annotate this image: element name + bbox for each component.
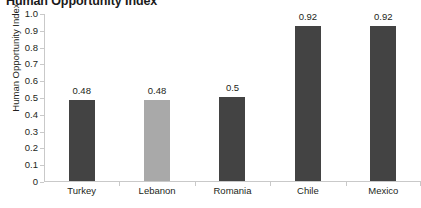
bar-value-label: 0.5 <box>226 83 239 93</box>
page-title: Human Opportunity Index <box>6 0 157 8</box>
y-axis-title: Human Opportunity Index <box>10 0 21 117</box>
y-axis-tick-label: 0.6 <box>25 76 38 86</box>
y-axis-tick-label: 0.3 <box>25 127 38 137</box>
x-axis-category-label: Mexico <box>368 186 398 196</box>
bar-value-label: 0.92 <box>374 12 393 22</box>
x-axis-labels: TurkeyLebanonRomaniaChileMexico <box>44 186 421 204</box>
bar[interactable] <box>69 100 95 181</box>
bar-value-label: 0.92 <box>299 12 318 22</box>
x-axis-category-label: Chile <box>297 186 319 196</box>
bar-chart: Human Opportunity Index Human Opportunit… <box>0 0 421 208</box>
x-axis-line <box>44 181 421 182</box>
bar[interactable] <box>144 100 170 181</box>
bar-group: 0.48 <box>44 14 119 181</box>
bar-group: 0.5 <box>195 14 270 181</box>
y-axis-tick-label: 1.0 <box>25 9 38 19</box>
y-axis-tick-label: 0 <box>33 177 38 187</box>
y-axis-tick <box>40 182 44 183</box>
y-axis-tick-label: 0.4 <box>25 110 38 120</box>
bar-group: 0.48 <box>119 14 194 181</box>
y-axis-tick-label: 0.8 <box>25 43 38 53</box>
x-axis-category-label: Lebanon <box>139 186 176 196</box>
bar[interactable] <box>370 26 396 181</box>
x-axis-category-label: Turkey <box>67 186 96 196</box>
y-axis-tick-label: 0.7 <box>25 60 38 70</box>
bar-value-label: 0.48 <box>72 86 91 96</box>
bar[interactable] <box>219 97 245 181</box>
plot-area: 1.00.90.80.70.60.50.40.30.20.10 0.480.48… <box>44 14 421 182</box>
bar[interactable] <box>295 26 321 181</box>
bar-group: 0.92 <box>270 14 345 181</box>
y-axis-tick-label: 0.5 <box>25 93 38 103</box>
bar-group: 0.92 <box>346 14 421 181</box>
bar-value-label: 0.48 <box>148 86 167 96</box>
y-axis-tick-label: 0.9 <box>25 26 38 36</box>
y-axis-tick-label: 0.2 <box>25 144 38 154</box>
x-axis-category-label: Romania <box>213 186 251 196</box>
y-axis-tick-label: 0.1 <box>25 160 38 170</box>
